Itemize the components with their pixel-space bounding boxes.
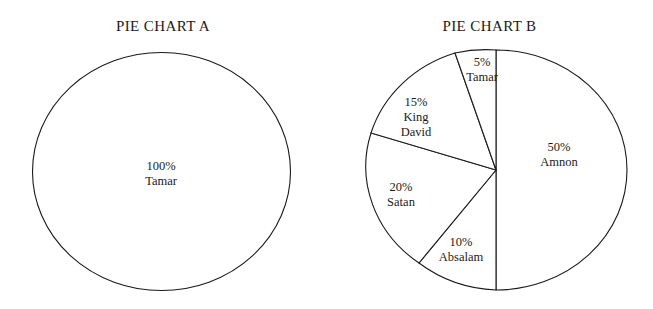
pie-chart-b-slice-amnon [496,50,627,290]
pie-chart-b-svg [326,0,653,309]
pie-chart-b-canvas [326,0,653,309]
pie-chart-a-svg [0,0,326,309]
pie-chart-a-slice-tamar [33,53,291,291]
pie-chart-a-panel: PIE CHART A 100% Tamar [0,0,326,309]
pie-chart-a-canvas [0,0,326,309]
pie-charts-figure: PIE CHART A 100% Tamar PIE CHART B [0,0,653,309]
pie-chart-b-panel: PIE CHART B 50% Amnon 10% A [326,0,653,309]
